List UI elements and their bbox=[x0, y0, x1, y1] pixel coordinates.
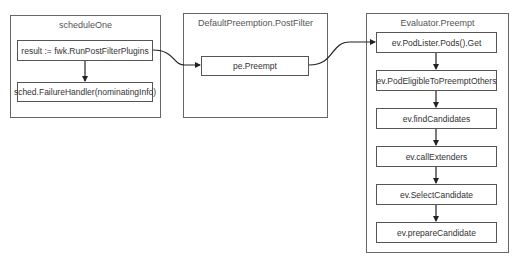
node-run-postfilter-plugins[interactable]: result := fwk.RunPostFilterPlugins bbox=[17, 40, 153, 61]
node-prepare-candidate[interactable]: ev.prepareCandidate bbox=[376, 222, 497, 243]
node-call-extenders[interactable]: ev.callExtenders bbox=[376, 146, 497, 167]
container-title: Evaluator.Preempt bbox=[367, 18, 508, 28]
node-failure-handler[interactable]: sched.FailureHandler(nominatingInfo) bbox=[17, 82, 153, 102]
node-find-candidates[interactable]: ev.findCandidates bbox=[376, 108, 497, 129]
node-pod-eligible[interactable]: ev.PodEligibleToPreemptOthers bbox=[376, 70, 497, 91]
container-title: DefaultPreemption.PostFilter bbox=[184, 18, 327, 28]
container-title: scheduleOne bbox=[11, 20, 160, 30]
node-select-candidate[interactable]: ev.SelectCandidate bbox=[376, 184, 497, 205]
node-pod-lister-get[interactable]: ev.PodLister.Pods().Get bbox=[376, 32, 497, 53]
container-schedule-one: scheduleOne bbox=[10, 15, 161, 118]
node-pe-preempt[interactable]: pe.Preempt bbox=[201, 56, 309, 76]
